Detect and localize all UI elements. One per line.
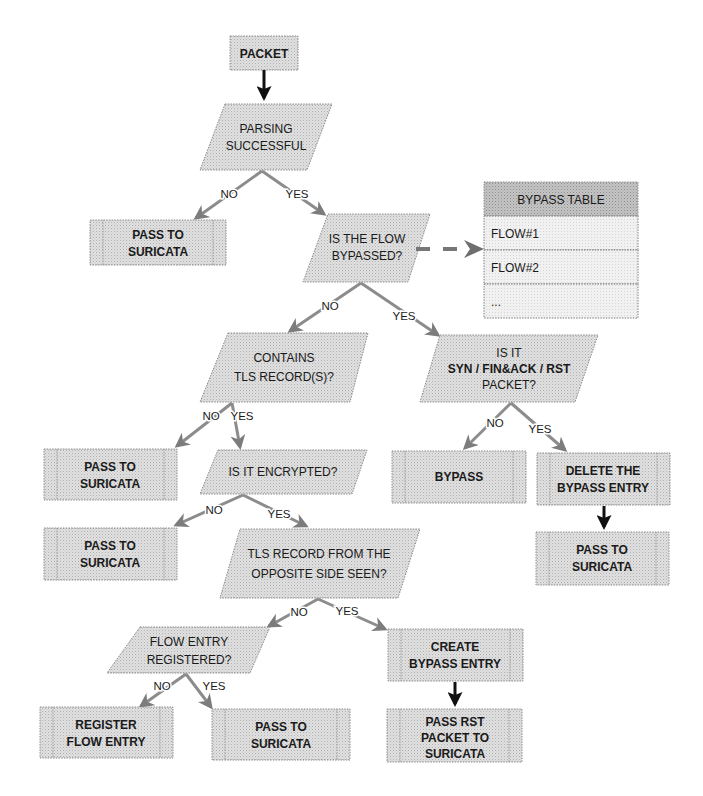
branch-label-no: NO xyxy=(290,606,307,618)
branch-label-no: NO xyxy=(321,300,338,312)
branch-label-yes: YES xyxy=(335,605,358,617)
svg-text:PACKET?: PACKET? xyxy=(482,378,536,392)
svg-text:REGISTER: REGISTER xyxy=(75,718,137,732)
action-pass-to-suricata-5: PASS TO SURICATA xyxy=(212,709,350,760)
svg-text:CONTAINS: CONTAINS xyxy=(253,351,314,365)
svg-text:FLOW ENTRY: FLOW ENTRY xyxy=(67,735,146,749)
branch-label-yes: YES xyxy=(202,680,225,692)
svg-text:PARSING: PARSING xyxy=(239,122,292,136)
decision-flow-entry-registered: FLOW ENTRY REGISTERED? xyxy=(107,627,270,673)
svg-text:DELETE THE: DELETE THE xyxy=(566,464,641,478)
svg-text:PACKET TO: PACKET TO xyxy=(421,731,489,745)
svg-text:IS IT: IS IT xyxy=(496,346,522,360)
action-bypass: BYPASS xyxy=(392,451,526,503)
svg-text:TLS RECORD(S)?: TLS RECORD(S)? xyxy=(234,370,334,384)
branch-label-yes: YES xyxy=(230,410,253,422)
svg-text:REGISTERED?: REGISTERED? xyxy=(147,653,232,667)
bypass-table-row: ... xyxy=(491,295,501,309)
decision-tls-opposite-side-seen: TLS RECORD FROM THE OPPOSITE SIDE SEEN? xyxy=(220,529,420,598)
bypass-table-row: FLOW#1 xyxy=(491,227,539,241)
svg-text:CREATE: CREATE xyxy=(431,640,479,654)
svg-text:PASS TO: PASS TO xyxy=(576,543,628,557)
svg-text:FLOW ENTRY: FLOW ENTRY xyxy=(150,635,228,649)
svg-text:IS THE FLOW: IS THE FLOW xyxy=(329,232,406,246)
svg-text:PASS TO: PASS TO xyxy=(132,228,184,242)
svg-text:BYPASS ENTRY: BYPASS ENTRY xyxy=(557,481,649,495)
branch-label-no: NO xyxy=(202,410,219,422)
decision-contains-tls-records: CONTAINS TLS RECORD(S)? xyxy=(200,333,368,402)
svg-text:IS IT ENCRYPTED?: IS IT ENCRYPTED? xyxy=(229,465,338,479)
action-create-bypass-entry: CREATE BYPASS ENTRY xyxy=(388,629,523,681)
svg-text:TLS RECORD FROM THE: TLS RECORD FROM THE xyxy=(247,547,390,561)
action-pass-to-suricata-3: PASS TO SURICATA xyxy=(536,532,669,585)
svg-text:SUCCESSFUL: SUCCESSFUL xyxy=(226,139,307,153)
action-register-flow-entry: REGISTER FLOW ENTRY xyxy=(40,707,173,758)
branch-label-yes: YES xyxy=(528,423,551,435)
action-pass-to-suricata-1: PASS TO SURICATA xyxy=(90,220,226,265)
decision-is-flow-bypassed: IS THE FLOW BYPASSED? xyxy=(303,214,430,282)
action-delete-bypass-entry: DELETE THE BYPASS ENTRY xyxy=(537,453,670,505)
svg-text:PASS TO: PASS TO xyxy=(84,539,136,553)
svg-text:BYPASS: BYPASS xyxy=(435,470,483,484)
branch-label-yes: YES xyxy=(267,508,290,520)
action-pass-to-suricata-2: PASS TO SURICATA xyxy=(44,449,177,500)
svg-text:SURICATA: SURICATA xyxy=(80,556,141,570)
svg-text:BYPASS ENTRY: BYPASS ENTRY xyxy=(409,657,501,671)
branch-label-no: NO xyxy=(486,417,503,429)
svg-text:BYPASSED?: BYPASSED? xyxy=(332,249,403,263)
decision-parsing-successful: PARSING SUCCESSFUL xyxy=(200,104,332,170)
branch-label-no: NO xyxy=(220,188,237,200)
action-pass-to-suricata-4: PASS TO SURICATA xyxy=(44,528,177,580)
bypass-table-title: BYPASS TABLE xyxy=(517,193,604,207)
svg-text:PASS TO: PASS TO xyxy=(255,720,307,734)
bypass-flowchart: PACKET PARSING SUCCESSFUL NO YES PASS TO… xyxy=(0,0,703,796)
svg-text:SURICATA: SURICATA xyxy=(425,747,486,761)
branch-label-yes: YES xyxy=(285,188,308,200)
packet-label: PACKET xyxy=(240,47,289,61)
decision-is-syn-fin-rst: IS IT SYN / FIN&ACK / RST PACKET? xyxy=(420,335,598,402)
svg-text:SYN / FIN&ACK / RST: SYN / FIN&ACK / RST xyxy=(448,362,571,376)
action-pass-rst-to-suricata: PASS RST PACKET TO SURICATA xyxy=(387,709,522,762)
svg-text:PASS RST: PASS RST xyxy=(425,715,485,729)
branch-label-no: NO xyxy=(205,504,222,516)
start-node-packet: PACKET xyxy=(230,36,298,70)
svg-text:PASS TO: PASS TO xyxy=(84,460,136,474)
branch-label-yes: YES xyxy=(392,310,415,322)
arrow-bypassed-yes xyxy=(361,283,438,335)
svg-text:SURICATA: SURICATA xyxy=(572,560,633,574)
decision-is-encrypted: IS IT ENCRYPTED? xyxy=(200,450,367,494)
svg-text:OPPOSITE SIDE SEEN?: OPPOSITE SIDE SEEN? xyxy=(251,567,387,581)
branch-label-no: NO xyxy=(153,680,170,692)
bypass-table-row: FLOW#2 xyxy=(491,261,539,275)
bypass-table: BYPASS TABLE FLOW#1 FLOW#2 ... xyxy=(484,182,638,318)
svg-text:SURICATA: SURICATA xyxy=(251,737,312,751)
arrow-lookup-bypass-table xyxy=(416,240,484,258)
svg-text:SURICATA: SURICATA xyxy=(80,477,141,491)
svg-text:SURICATA: SURICATA xyxy=(128,245,189,259)
